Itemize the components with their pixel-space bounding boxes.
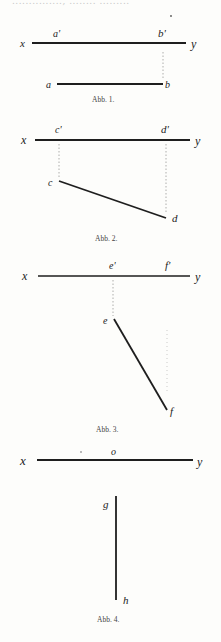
label-y: y bbox=[196, 455, 203, 469]
label-e: e bbox=[103, 315, 108, 326]
label-f-prime: f' bbox=[165, 259, 171, 271]
label-x: x bbox=[21, 269, 28, 283]
caption-abb-1: Abb. 1. bbox=[92, 95, 114, 104]
label-y: y bbox=[190, 37, 197, 51]
label-b-prime: b' bbox=[158, 27, 167, 39]
caption-abb-4: Abb. 4. bbox=[97, 615, 119, 624]
label-d-prime: d' bbox=[161, 123, 170, 135]
label-a: a bbox=[46, 79, 51, 90]
label-f: f bbox=[170, 405, 175, 417]
label-d: d bbox=[172, 212, 178, 224]
segment-ef bbox=[114, 319, 167, 410]
label-c-prime: c' bbox=[55, 124, 62, 135]
label-c: c bbox=[48, 177, 53, 188]
label-h: h bbox=[123, 594, 129, 606]
label-x: x bbox=[19, 37, 25, 49]
label-y: y bbox=[194, 270, 201, 284]
figure-4: x y o g h Abb. 4. bbox=[19, 446, 203, 624]
label-o: o bbox=[111, 446, 116, 457]
label-a-prime: a' bbox=[53, 28, 61, 39]
figure-3: x y e' f' e f Abb. 3. bbox=[21, 259, 201, 434]
segment-cd bbox=[59, 181, 166, 218]
caption-abb-3: Abb. 3. bbox=[96, 425, 118, 434]
figure-2: x y c' d' c d Abb. 2. bbox=[20, 123, 201, 243]
label-x: x bbox=[19, 453, 26, 468]
label-x: x bbox=[20, 133, 27, 147]
figure-1: x y a' b' a b Abb. 1. bbox=[19, 15, 197, 104]
label-y: y bbox=[194, 134, 201, 148]
label-g: g bbox=[103, 498, 109, 510]
label-b: b bbox=[165, 79, 170, 90]
projection-figures: x y a' b' a b Abb. 1. x y c' d' c d Abb.… bbox=[0, 0, 221, 642]
label-e-prime: e' bbox=[109, 260, 116, 271]
scanned-page: ..............., ........ ......... x y … bbox=[0, 0, 221, 642]
caption-abb-2: Abb. 2. bbox=[95, 234, 117, 243]
